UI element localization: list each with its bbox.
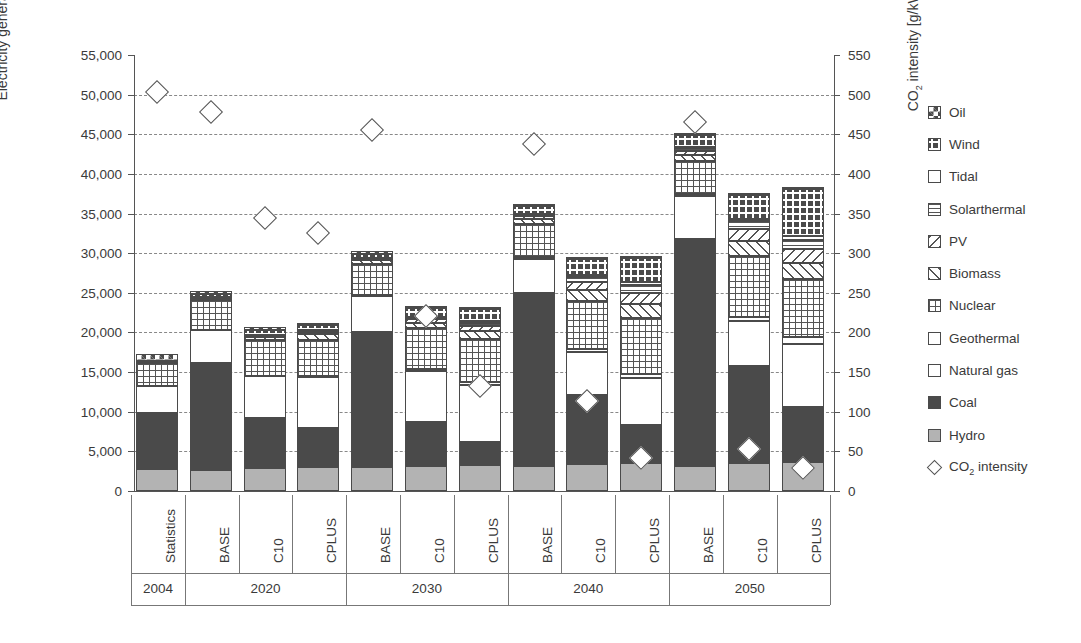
chart-legend: OilWindTidalSolarthermalPVBiomassNuclear… xyxy=(928,96,1078,484)
left-axis-spine xyxy=(134,55,135,491)
bar-segment-oil xyxy=(513,204,555,206)
bar-segment-biomass xyxy=(620,304,662,318)
bar-segment-wind xyxy=(351,254,393,258)
x-axis-cell-separator xyxy=(292,495,293,573)
bar-segment-pv xyxy=(782,249,824,262)
bar-segment-hydro xyxy=(566,464,608,491)
gridline xyxy=(134,95,834,96)
bar-segment-natural-gas xyxy=(728,321,770,365)
bar-segment-pv xyxy=(459,326,501,332)
right-axis-title-sub: 2 xyxy=(914,85,924,90)
legend-item-hydro[interactable]: Hydro xyxy=(928,419,1078,451)
bar-segment-geothermal xyxy=(728,317,770,322)
bar-segment-geothermal xyxy=(620,374,662,379)
bar-segment-coal xyxy=(244,418,286,468)
legend-item-natural_gas[interactable]: Natural gas xyxy=(928,354,1078,386)
x-axis-group-separator xyxy=(508,495,509,605)
legend-item-oil[interactable]: Oil xyxy=(928,96,1078,128)
legend-item-solarthermal[interactable]: Solarthermal xyxy=(928,193,1078,225)
left-axis-title: Electricity generation [TWh] xyxy=(0,0,10,155)
bar-segment-oil xyxy=(136,354,178,361)
legend-label-nuclear: Nuclear xyxy=(949,298,996,313)
x-axis-scenario-label: C10 xyxy=(432,538,447,563)
legend-item-tidal[interactable]: Tidal xyxy=(928,161,1078,193)
legend-swatch-pv xyxy=(928,235,941,248)
bar-segment-hydro xyxy=(513,466,555,491)
bar-segment-pv xyxy=(620,293,662,304)
legend-item-wind[interactable]: Wind xyxy=(928,128,1078,160)
x-axis-scenario-label: Statistics xyxy=(163,509,178,563)
x-axis-cell-separator xyxy=(723,495,724,573)
y-axis-tick-left: 50,000 xyxy=(81,87,122,102)
legend-swatch-tidal xyxy=(928,170,941,183)
bar-segment-nuclear xyxy=(244,340,286,376)
right-axis-spine xyxy=(834,55,835,491)
bar-segment-biomass xyxy=(244,337,286,340)
bar-segment-natural-gas xyxy=(782,344,824,407)
bar-segment-biomass xyxy=(459,331,501,339)
bar-segment-nuclear xyxy=(136,363,178,385)
bar-segment-solarthermal xyxy=(566,277,608,283)
bar-segment-wind xyxy=(297,325,339,331)
x-axis-year-label: 2004 xyxy=(131,581,185,596)
bar-segment-coal xyxy=(782,407,824,462)
co2-intensity-marker xyxy=(253,206,277,230)
bar-segment-coal xyxy=(513,293,555,467)
x-axis-scenario-label: C10 xyxy=(271,538,286,563)
x-axis-cell-separator xyxy=(561,495,562,573)
legend-item-co2[interactable]: CO2 intensity xyxy=(928,451,1078,483)
x-axis-group-separator xyxy=(185,495,186,605)
bar-segment-geothermal xyxy=(405,369,447,371)
bar-segment-wind xyxy=(190,294,232,297)
bar-segment-wind xyxy=(566,259,608,275)
x-axis-bottom-border xyxy=(131,605,830,606)
legend-item-nuclear[interactable]: Nuclear xyxy=(928,290,1078,322)
bar-segment-coal xyxy=(297,428,339,467)
co2-intensity-marker xyxy=(306,221,330,245)
bar-segment-geothermal xyxy=(674,194,716,196)
y-axis-tick-right: 0 xyxy=(848,484,856,499)
legend-label-solarthermal: Solarthermal xyxy=(949,202,1026,217)
x-axis-scenario-label: C10 xyxy=(593,538,608,563)
x-axis-scenario-label: CPLUS xyxy=(647,518,662,563)
bar-segment-natural-gas xyxy=(136,386,178,413)
bar-segment-pv xyxy=(297,332,339,334)
co2-intensity-marker xyxy=(683,110,707,134)
y-axis-tick-right: 200 xyxy=(848,325,871,340)
bar-segment-tidal xyxy=(566,275,608,277)
gridline xyxy=(134,134,834,135)
legend-item-geothermal[interactable]: Geothermal xyxy=(928,322,1078,354)
bar-segment-wind xyxy=(459,309,501,322)
legend-item-coal[interactable]: Coal xyxy=(928,387,1078,419)
bar-segment-hydro xyxy=(405,466,447,491)
x-axis-scenario-label: BASE xyxy=(217,527,232,563)
legend-label-hydro: Hydro xyxy=(949,428,985,443)
x-axis-group-separator xyxy=(131,495,132,605)
right-axis-title-pre: CO xyxy=(905,90,921,111)
y-axis-tick-left: 20,000 xyxy=(81,325,122,340)
bar-segment-wind xyxy=(620,258,662,282)
bar-segment-natural-gas xyxy=(297,377,339,429)
y-axis-tick-right: 250 xyxy=(848,285,871,300)
x-axis-year-label: 2040 xyxy=(508,581,669,596)
bar-segment-pv xyxy=(513,216,555,219)
bar-segment-coal xyxy=(351,332,393,468)
legend-item-biomass[interactable]: Biomass xyxy=(928,257,1078,289)
bar-segment-pv xyxy=(728,229,770,240)
bar-segment-coal xyxy=(674,239,716,466)
bar-segment-oil xyxy=(351,251,393,254)
y-axis-tick-left: 45,000 xyxy=(81,127,122,142)
legend-item-pv[interactable]: PV xyxy=(928,225,1078,257)
chart-root: Electricity generation [TWh] CO2 intensi… xyxy=(0,0,1081,643)
co2-intensity-marker xyxy=(199,100,223,124)
y-axis-tick-left: 5,000 xyxy=(88,444,122,459)
legend-label-co2: CO2 intensity xyxy=(949,459,1028,477)
legend-label-wind: Wind xyxy=(949,137,980,152)
y-axis-tick-left: 0 xyxy=(114,484,122,499)
bar-segment-nuclear xyxy=(405,328,447,369)
bar-segment-biomass xyxy=(513,219,555,224)
legend-label-biomass: Biomass xyxy=(949,266,1001,281)
y-axis-tick-left: 10,000 xyxy=(81,404,122,419)
y-axis-tick-left: 40,000 xyxy=(81,166,122,181)
legend-swatch-natural_gas xyxy=(928,364,941,377)
